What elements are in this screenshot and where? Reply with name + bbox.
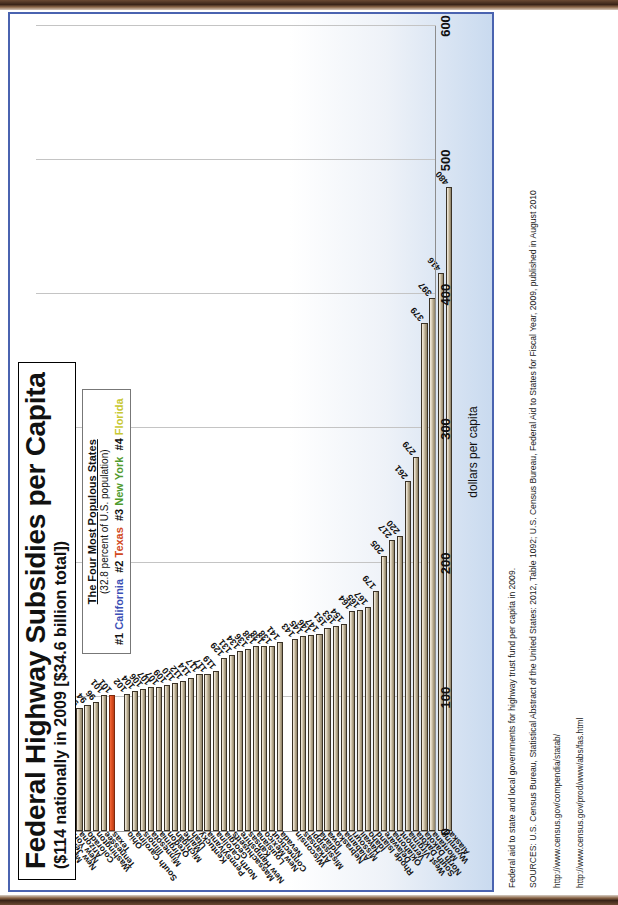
bar-row: 138Connecticut (269, 26, 275, 831)
legend-title: The Four Most Populous States (86, 398, 99, 645)
bar-hawaii (357, 610, 363, 831)
legend-rank-4: #4 (113, 438, 125, 450)
bar-row: 147Indiana (316, 26, 322, 831)
bar-rhode-island (373, 591, 379, 831)
x-tick-label-400: 400 (438, 284, 453, 306)
legend-state-new-york: New York (113, 457, 125, 506)
caption-url-2: http://www.census.gov/prod/www/abs/fas.h… (574, 14, 586, 888)
bar-value-label: 397 (417, 281, 434, 299)
bar-row: 279South Dakota (413, 26, 419, 831)
x-tick-label-500: 500 (438, 149, 453, 171)
bar-kentucky (196, 674, 202, 831)
bar-row: 379North Dakota (421, 26, 427, 831)
bar-row: 261West Virginia (405, 26, 411, 831)
bar-mississippi (308, 635, 314, 831)
x-axis-label: dollars per capita (466, 14, 480, 890)
bar-colorado (84, 705, 90, 831)
bar-tennessee (101, 696, 107, 832)
bar-kansas (245, 649, 251, 831)
chart-subtitle: ($114 nationally in 2009 [$34.6 billion … (52, 373, 70, 869)
x-tick-label-100: 100 (438, 687, 453, 709)
bar-row: 153Nebraska (333, 26, 339, 831)
bar-row: 114Utah (188, 26, 194, 831)
bar-illinois (140, 689, 146, 831)
legend-rank-1: #1 (113, 633, 125, 645)
bar-row: 205Delaware (381, 26, 387, 831)
bar-georgia (221, 658, 227, 831)
scan-edge-top (0, 0, 618, 10)
bar-row: 154Alabama (341, 26, 347, 831)
page-title: Federal Highway Subsidies per Capita (22, 373, 50, 869)
chart-slide: Federal Highway Subsidies per Capita ($1… (8, 12, 494, 892)
bar-vermont (397, 536, 403, 831)
bar-idaho (365, 607, 371, 831)
slide-rotation-wrapper: Federal Highway Subsidies per Capita ($1… (8, 12, 494, 892)
bar-value-label: 261 (393, 463, 410, 481)
x-tick-label-300: 300 (438, 418, 453, 440)
bar-louisiana (253, 646, 259, 831)
bar-row: 134New Hampshire (237, 26, 243, 831)
bar-row: 106Illinois (140, 26, 146, 831)
caption-note: Federal aid to state and local governmen… (506, 14, 518, 888)
bar-row: 136Kansas (245, 26, 251, 831)
bar-utah (188, 678, 194, 831)
x-tick-label-600: 600 (438, 15, 453, 37)
scan-edge-bottom (0, 895, 618, 905)
bar-row: 104South Carolina (132, 26, 138, 831)
bar-row: 145Arkansas (300, 26, 306, 831)
x-tick-label-200: 200 (438, 552, 453, 574)
bar-row: 138Louisiana (253, 26, 259, 831)
bar-oregon (164, 685, 170, 831)
legend-entries: #1 California #2 Texas #3 New York #4 Fl… (113, 398, 127, 645)
bar-row: 220Vermont (397, 26, 403, 831)
bar-new-hampshire (237, 651, 243, 831)
bar-row: 151Iowa (324, 26, 330, 831)
bar-iowa (324, 628, 330, 831)
bar-row: 167Idaho (365, 26, 371, 831)
bar-north-dakota (421, 323, 427, 831)
caption-rotation-wrapper: Federal aid to state and local governmen… (506, 14, 610, 892)
bar-north-carolina (213, 671, 219, 831)
bar-delaware (381, 556, 387, 831)
bar-connecticut (269, 646, 275, 831)
bar-arizona (76, 708, 82, 831)
legend-state-florida: Florida (113, 398, 125, 435)
bar-oklahoma (389, 540, 395, 831)
bar-row: 109Oregon (164, 26, 170, 831)
x-axis-line (435, 26, 436, 832)
bar-row: 141Nevada (277, 26, 283, 831)
bar-row: 146Mississippi (308, 26, 314, 831)
legend-rank-2: #2 (113, 561, 125, 573)
bar-alabama (341, 624, 347, 831)
bar-row: 131Massachusetts (229, 26, 235, 831)
caption-url-1: http://www.census.gov/compendia/statab/ (551, 14, 563, 888)
legend-subtitle: (32.8 percent of U.S. population) (99, 398, 112, 645)
bar-nebraska (333, 626, 339, 831)
x-axis-ticks: 0100200300400500600 (438, 26, 458, 832)
bar-row: 107Minnesota (148, 26, 154, 831)
bar-michigan (172, 683, 178, 831)
bar-row: 164Missouri (349, 26, 355, 831)
bar-indiana (316, 634, 322, 831)
bar-row: 129Georgia (221, 26, 227, 831)
bar-value-label: 379 (409, 305, 426, 323)
bar-virginia (156, 687, 162, 831)
caption-sources: SOURCES: U.S. Census Bureau, Statistical… (527, 14, 539, 888)
bar-ohio (124, 694, 130, 831)
x-tick-label-0: 0 (438, 828, 453, 835)
bar-row: 165Hawaii (357, 26, 363, 831)
source-caption: Federal aid to state and local governmen… (506, 14, 610, 892)
bar-washington (93, 702, 99, 831)
bar-row: 217Oklahoma (389, 26, 395, 831)
bar-row: 143Wisconsin (292, 26, 298, 831)
legend-state-texas: Texas (113, 527, 125, 557)
bar-minnesota (148, 687, 154, 831)
bar-value-label: 179 (360, 573, 377, 591)
bar-row: 138New Mexico (261, 26, 267, 831)
bar-nevada (277, 642, 283, 831)
legend-state-california: California (113, 579, 125, 630)
bar-texas (109, 696, 115, 832)
bar-value-label: 205 (369, 538, 386, 556)
bar-row: 179Rhode Island (373, 26, 379, 831)
bar-row: 119North Carolina (213, 26, 219, 831)
